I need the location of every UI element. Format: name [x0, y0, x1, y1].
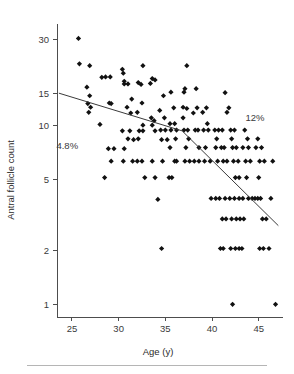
data-point — [270, 159, 275, 164]
data-point — [139, 100, 144, 105]
x-tick-label: 40 — [207, 323, 218, 334]
data-point — [140, 123, 145, 128]
data-point — [242, 127, 247, 132]
data-point — [239, 246, 244, 251]
data-point — [102, 175, 107, 180]
data-point — [213, 145, 218, 150]
data-point — [148, 81, 153, 86]
data-point — [206, 127, 211, 132]
data-point — [173, 136, 178, 141]
data-point — [264, 216, 269, 221]
data-point — [273, 302, 278, 307]
annotation-rate-left: 4.8% — [56, 140, 78, 151]
data-point — [217, 196, 222, 201]
data-point — [130, 159, 135, 164]
data-point — [224, 159, 229, 164]
data-point — [121, 159, 126, 164]
data-point — [142, 175, 147, 180]
data-point — [268, 196, 273, 201]
data-point — [191, 110, 196, 115]
annotation-rate-right: 12% — [245, 112, 265, 123]
data-point — [262, 159, 267, 164]
data-point — [237, 175, 242, 180]
data-point — [248, 159, 253, 164]
data-point — [240, 196, 245, 201]
data-point — [259, 145, 264, 150]
x-tick-label: 45 — [253, 323, 264, 334]
data-point — [87, 63, 92, 68]
data-point — [120, 67, 125, 72]
data-point — [150, 159, 155, 164]
x-tick-label: 25 — [67, 323, 78, 334]
data-point — [183, 145, 188, 150]
data-point — [97, 122, 102, 127]
data-point — [140, 63, 145, 68]
footer-divider — [27, 365, 267, 366]
data-point — [258, 196, 263, 201]
data-point — [125, 81, 130, 86]
data-point — [229, 216, 234, 221]
data-point — [222, 196, 227, 201]
y-tick-label: 5 — [44, 174, 49, 185]
data-point — [257, 159, 262, 164]
data-point — [203, 145, 208, 150]
data-point — [266, 246, 271, 251]
data-point — [215, 159, 220, 164]
data-point — [223, 216, 228, 221]
data-point — [161, 93, 166, 98]
data-point — [240, 145, 245, 150]
data-point — [187, 159, 192, 164]
data-point — [77, 61, 82, 66]
data-point — [192, 159, 197, 164]
data-point — [167, 145, 172, 150]
data-point — [131, 137, 136, 142]
data-point — [140, 128, 145, 133]
data-point — [227, 196, 232, 201]
antral-follicle-count-scatter-chart: 125101530 2530354045 4.8%12% Age (y) Ant… — [0, 0, 294, 374]
data-point — [155, 197, 160, 202]
data-point — [135, 110, 140, 115]
data-point — [194, 105, 199, 110]
data-point — [124, 105, 129, 110]
data-point — [261, 246, 266, 251]
data-point — [204, 105, 209, 110]
data-point — [139, 159, 144, 164]
data-point — [160, 159, 165, 164]
data-point — [236, 159, 241, 164]
data-point — [109, 159, 114, 164]
data-point — [222, 145, 227, 150]
data-point — [255, 136, 260, 141]
data-point — [221, 246, 226, 251]
data-point — [76, 36, 81, 41]
data-point — [122, 146, 127, 151]
data-point — [88, 105, 93, 110]
data-point — [200, 110, 205, 115]
y-axis-ticks: 125101530 — [38, 34, 57, 310]
data-point — [205, 121, 210, 126]
data-point — [103, 74, 108, 79]
x-tick-label: 35 — [160, 323, 171, 334]
figure-container: 125101530 2530354045 4.8%12% Age (y) Ant… — [0, 0, 294, 374]
data-points-layer — [76, 36, 278, 307]
data-point — [111, 146, 116, 151]
data-point — [228, 246, 233, 251]
data-point — [84, 85, 89, 90]
data-point — [208, 159, 213, 164]
data-point — [253, 145, 258, 150]
data-point — [136, 136, 141, 141]
data-point — [86, 110, 91, 115]
data-point — [169, 175, 174, 180]
data-point — [214, 136, 219, 141]
data-point — [202, 159, 207, 164]
data-point — [230, 302, 235, 307]
data-point — [241, 216, 246, 221]
data-point — [208, 196, 213, 201]
data-point — [220, 127, 225, 132]
data-point — [127, 128, 132, 133]
y-tick-label: 30 — [38, 34, 49, 45]
data-point — [150, 123, 155, 128]
data-point — [231, 159, 236, 164]
data-point — [108, 74, 113, 79]
data-point — [184, 63, 189, 68]
data-point — [120, 128, 125, 133]
